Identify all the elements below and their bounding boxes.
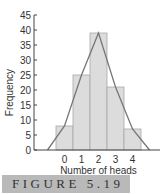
histogram-bar xyxy=(124,129,141,150)
y-tick-label: 10 xyxy=(20,115,32,126)
y-tick-label: 45 xyxy=(20,10,32,21)
y-tick-label: 40 xyxy=(20,25,32,36)
y-tick-label: 30 xyxy=(20,55,32,66)
figure-caption: FIGURE 5.19 xyxy=(2,175,130,193)
x-tick-label: 1 xyxy=(79,154,85,165)
histogram-chart: 05101520253035404501234Number of headsFr… xyxy=(0,0,166,175)
x-tick-label: 4 xyxy=(130,154,136,165)
y-tick-label: 15 xyxy=(20,100,32,111)
x-tick-label: 2 xyxy=(96,154,102,165)
histogram-bar xyxy=(107,87,124,150)
x-axis-label: Number of heads xyxy=(60,165,137,175)
histogram-bar xyxy=(56,126,73,150)
y-tick-label: 20 xyxy=(20,85,32,96)
y-tick-label: 35 xyxy=(20,40,32,51)
histogram-bar xyxy=(73,75,90,150)
x-tick-label: 0 xyxy=(62,154,68,165)
y-axis-label: Frequency xyxy=(4,69,15,116)
y-tick-label: 0 xyxy=(25,145,31,156)
y-tick-label: 25 xyxy=(20,70,32,81)
x-tick-label: 3 xyxy=(113,154,119,165)
y-tick-label: 5 xyxy=(25,130,31,141)
